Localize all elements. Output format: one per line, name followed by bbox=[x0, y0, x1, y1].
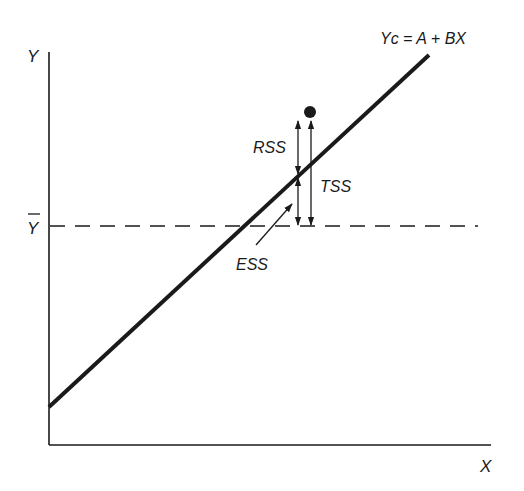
x-axis-label: X bbox=[479, 457, 492, 476]
mean-y-label: Y bbox=[27, 214, 40, 238]
regression-equation-label: Yc = A + BX bbox=[380, 30, 467, 47]
ess-label: ESS bbox=[236, 256, 268, 273]
tss-label: TSS bbox=[320, 178, 351, 195]
y-axis-label: Y bbox=[27, 47, 40, 66]
svg-text:Y: Y bbox=[27, 219, 40, 238]
rss-label: RSS bbox=[253, 139, 286, 156]
regression-decomposition-diagram: Y X Y Yc = A + BX RSS TSS ESS bbox=[0, 0, 524, 491]
observation-point bbox=[304, 106, 316, 118]
regression-line bbox=[49, 55, 429, 407]
